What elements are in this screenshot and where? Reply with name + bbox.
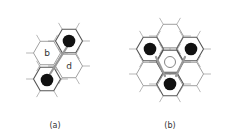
occupied-site-dot <box>164 78 177 91</box>
vacancy-site-dot <box>165 57 176 68</box>
lattice-edge <box>140 31 144 37</box>
lattice-edge <box>177 96 181 102</box>
occupied-site-dot <box>41 74 54 87</box>
occupied-site-dot <box>63 35 76 48</box>
site-label: d <box>66 61 72 71</box>
site-label: b <box>44 48 50 58</box>
lattice-edge <box>197 86 201 92</box>
lattice-edge <box>177 18 181 24</box>
lattice-edge <box>140 86 144 92</box>
lattice-edge <box>37 35 41 41</box>
lattice-edge <box>59 23 63 29</box>
hop-arrow <box>156 57 165 76</box>
hex-lattice-figure: bd <box>0 0 230 139</box>
panel-a-caption: (a) <box>49 121 60 130</box>
lattice-edge <box>37 91 41 97</box>
lattice-edge <box>160 96 164 102</box>
lattice-edge <box>160 18 164 24</box>
lattice-edge <box>54 91 58 97</box>
occupied-site-dot <box>144 43 157 56</box>
panel-b-caption: (b) <box>164 121 175 130</box>
lattice-edge <box>76 23 80 29</box>
lattice-edge <box>197 31 201 37</box>
hop-arrow <box>176 57 185 76</box>
occupied-site-dot <box>185 43 198 56</box>
hop-arrow <box>50 47 67 74</box>
lattice-edge <box>76 78 80 84</box>
